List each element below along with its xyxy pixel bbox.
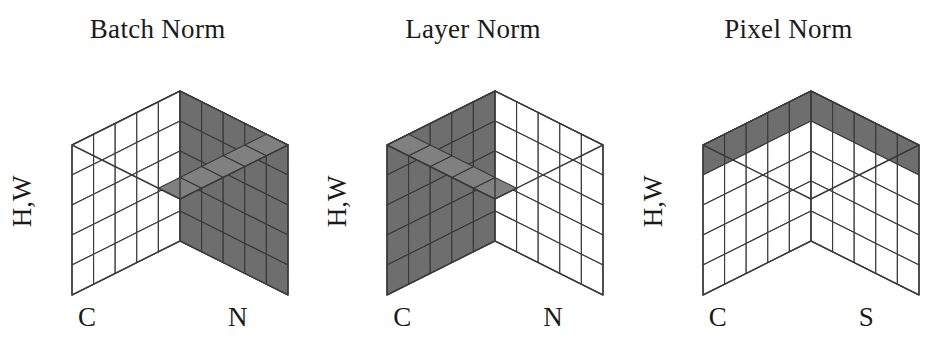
axis-label-left: C	[78, 302, 96, 333]
axis-label-vertical-text: H,W	[323, 176, 354, 228]
panel-batch-norm: Batch Norm H,W C N	[0, 0, 315, 358]
axis-label-left: C	[709, 302, 727, 333]
axis-label-vertical-text: H,W	[638, 176, 669, 228]
normalization-figure: Batch Norm H,W C N Layer Norm H,W C N Pi…	[0, 0, 946, 358]
panel-title: Batch Norm	[0, 14, 315, 45]
axis-label-vertical: H,W	[303, 186, 373, 217]
axis-label-right: S	[859, 302, 874, 333]
axis-label-left: C	[393, 302, 411, 333]
axis-label-right: N	[228, 302, 248, 333]
panel-pixel-norm: Pixel Norm H,W C S	[631, 0, 946, 358]
axis-label-right: N	[543, 302, 563, 333]
panel-title: Layer Norm	[315, 14, 630, 45]
panel-title: Pixel Norm	[631, 14, 946, 45]
axis-label-vertical-text: H,W	[7, 176, 38, 228]
axis-label-vertical: H,W	[0, 186, 58, 217]
axis-label-vertical: H,W	[619, 186, 689, 217]
panel-layer-norm: Layer Norm H,W C N	[315, 0, 630, 358]
